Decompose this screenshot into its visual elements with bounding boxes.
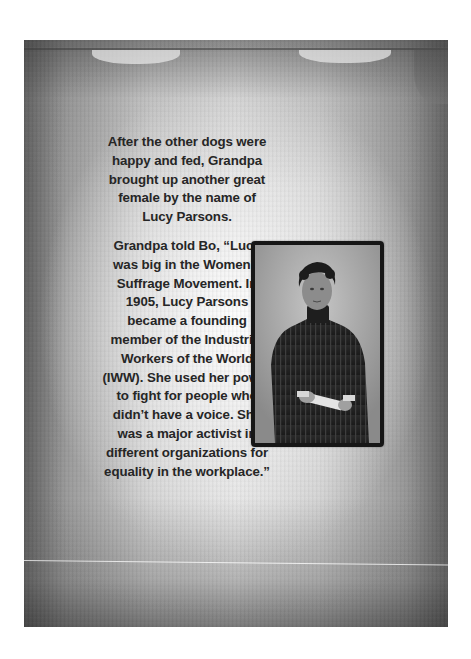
worn-patch [92, 50, 180, 64]
portrait-photo [251, 241, 384, 447]
paragraph-intro: After the other dogs were happy and fed,… [102, 133, 272, 227]
portrait-image [255, 245, 380, 443]
page-crease [24, 560, 448, 565]
worn-patch [299, 50, 391, 63]
corner-curl [414, 48, 448, 104]
storybook-page: After the other dogs were happy and fed,… [24, 40, 448, 627]
story-text: After the other dogs were happy and fed,… [102, 133, 272, 491]
paragraph-quote: Grandpa told Bo, “Lucy was big in the Wo… [102, 237, 272, 481]
